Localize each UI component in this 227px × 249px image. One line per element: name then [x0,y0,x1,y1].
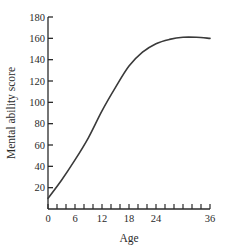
y-axis: 20406080100120140160180 [29,12,53,210]
x-tick-label: 36 [205,213,216,224]
x-tick-label: 0 [45,213,50,224]
y-tick-label: 20 [35,182,46,193]
mental-ability-curve [48,37,210,198]
x-axis: 0612182436 [45,204,215,224]
line-chart: 20406080100120140160180 0612182436 Age M… [0,0,227,249]
y-tick-label: 160 [29,33,45,44]
y-tick-label: 60 [35,140,46,151]
y-tick-label: 80 [35,118,46,129]
x-tick-label: 12 [97,213,108,224]
x-tick-label: 24 [151,213,162,224]
x-tick-label: 18 [124,213,135,224]
y-tick-label: 180 [29,12,45,23]
x-axis-title: Age [119,232,138,245]
y-tick-label: 140 [29,54,45,65]
y-axis-title: Mental ability score [5,67,18,159]
x-tick-label: 6 [72,213,77,224]
y-tick-label: 40 [35,161,46,172]
y-tick-label: 100 [29,97,45,108]
y-tick-label: 120 [29,76,45,87]
